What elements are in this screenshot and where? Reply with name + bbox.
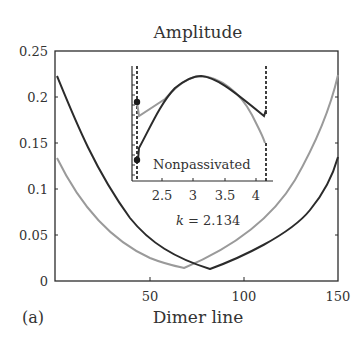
y-tick-label: 0.15 bbox=[19, 136, 48, 151]
k-annotation: k = 2.134 bbox=[176, 213, 240, 228]
inset-label-nonpassivated: Nonpassivated bbox=[153, 157, 250, 172]
k-symbol: k bbox=[176, 213, 184, 228]
x-tick-labels: 50 100 150 bbox=[142, 289, 351, 304]
y-tick-label: 0 bbox=[40, 274, 48, 289]
x-tick-label: 150 bbox=[326, 289, 351, 304]
panel-label: (a) bbox=[22, 308, 44, 327]
y-tick-label: 0.1 bbox=[27, 182, 48, 197]
amplitude-chart: Amplitude 0.25 0.2 0.15 0.1 0.05 0 50 10… bbox=[0, 0, 363, 349]
inset-x-tick-label: 3 bbox=[189, 188, 197, 203]
upper-marker-dot bbox=[134, 99, 140, 105]
inset-gray-curve bbox=[137, 76, 265, 143]
lower-marker-dot bbox=[134, 157, 140, 163]
inset-plot: Nonpassivated 2.5 3 3.5 4 bbox=[132, 66, 273, 203]
inset-dark-curve bbox=[138, 76, 266, 160]
y-tick-label: 0.05 bbox=[19, 228, 48, 243]
x-axis-label: Dimer line bbox=[153, 307, 244, 327]
chart-title: Amplitude bbox=[153, 22, 243, 42]
y-tick-label: 0.2 bbox=[27, 90, 48, 105]
y-tick-labels: 0.25 0.2 0.15 0.1 0.05 0 bbox=[19, 44, 48, 289]
inset-x-tick-label: 4 bbox=[252, 188, 260, 203]
inset-x-tick-label: 2.5 bbox=[152, 188, 173, 203]
y-tick-label: 0.25 bbox=[19, 44, 48, 59]
x-tick-label: 100 bbox=[232, 289, 257, 304]
inset-x-tick-label: 3.5 bbox=[215, 188, 236, 203]
k-value: = 2.134 bbox=[184, 213, 240, 228]
dark-curve bbox=[57, 76, 338, 269]
x-tick-label: 50 bbox=[142, 289, 159, 304]
